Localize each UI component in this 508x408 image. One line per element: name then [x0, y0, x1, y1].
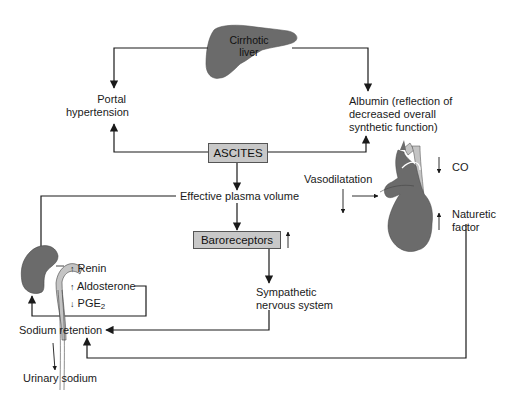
sympathetic-line1: Sympathetic [256, 286, 333, 299]
renin-label: ↑ Renin [70, 262, 106, 276]
effective-plasma-volume-label: Effective plasma volume [180, 190, 299, 203]
albumin-line2: decreased overall [349, 108, 452, 121]
liver-label-line1: Cirrhotic [216, 34, 282, 46]
sodium-retention-label: Sodium retention [19, 324, 102, 337]
ascites-box: ASCITES [208, 143, 268, 163]
pge2-text: PGE [78, 297, 101, 309]
sympathetic-line2: nervous system [256, 299, 333, 312]
renin-text: Renin [78, 262, 107, 274]
aldosterone-text: Aldosterone [77, 280, 136, 292]
pge2-label: ↓ PGE2 [70, 297, 105, 313]
liver-label-line2: liver [216, 46, 282, 58]
sympathetic-nervous-system-label: Sympathetic nervous system [256, 286, 333, 312]
co-label: CO [452, 161, 469, 174]
pge2-subscript: 2 [101, 302, 105, 311]
naturetic-line1: Naturetic [452, 208, 496, 221]
aldosterone-up-arrow-icon: ↑ [70, 282, 75, 292]
albumin-label: Albumin (reflection of decreased overall… [349, 95, 452, 134]
urinary-sodium-label: Urinary sodium [23, 372, 97, 385]
ascites-pathophysiology-diagram: Cirrhotic liver Portal hypertension Albu… [0, 0, 508, 408]
albumin-line1: Albumin (reflection of [349, 95, 452, 108]
albumin-line3: synthetic function) [349, 121, 452, 134]
naturetic-factor-label: Naturetic factor [452, 208, 496, 234]
naturetic-line2: factor [452, 221, 496, 234]
baroreceptors-box: Baroreceptors [193, 231, 281, 249]
connector-lines [0, 0, 508, 408]
renin-up-arrow-icon: ↑ [70, 264, 75, 274]
portal-hypertension-label: Portal hypertension [66, 93, 126, 119]
portal-line1: Portal [66, 93, 126, 106]
aldosterone-label: ↑ Aldosterone [70, 280, 136, 294]
liver-label: Cirrhotic liver [216, 34, 282, 58]
heart-illustration [380, 140, 433, 252]
vasodilatation-label: Vasodilatation [304, 173, 372, 186]
pge2-down-arrow-icon: ↓ [70, 299, 75, 309]
portal-line2: hypertension [66, 106, 126, 119]
